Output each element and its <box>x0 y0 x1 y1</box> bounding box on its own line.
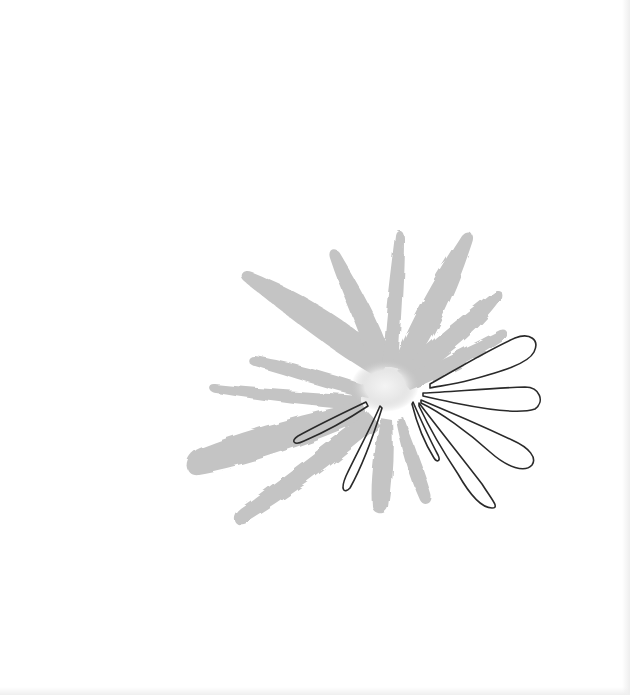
bottom-edge-shading <box>0 687 630 695</box>
flower-illustration <box>0 0 630 695</box>
right-edge-shading <box>622 0 630 695</box>
wash-petals <box>187 231 508 525</box>
flower-art <box>0 0 630 695</box>
